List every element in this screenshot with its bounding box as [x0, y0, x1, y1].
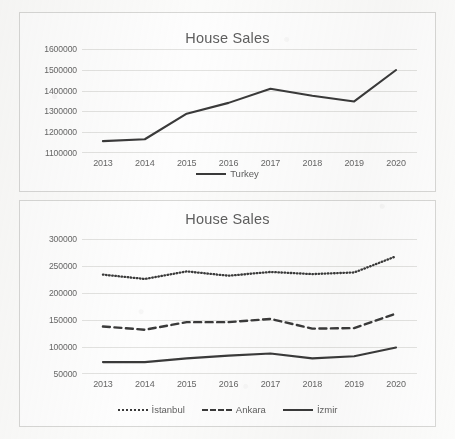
- y-axis-tick-label: 1500000: [44, 65, 77, 75]
- legend-line-swatch-icon: [283, 409, 313, 411]
- y-axis-tick-label: 1400000: [44, 86, 77, 96]
- plot-area: 1100000120000013000001400000150000016000…: [82, 49, 417, 153]
- x-axis-tick-label: 2015: [177, 158, 197, 168]
- chart-title: House Sales: [20, 30, 435, 46]
- y-axis-tick-label: 1200000: [44, 127, 77, 137]
- y-axis-tick-label: 200000: [49, 288, 77, 298]
- series-line-turkey: [103, 70, 396, 141]
- x-axis-tick-label: 2013: [93, 158, 113, 168]
- y-axis-tick-label: 50000: [54, 369, 77, 379]
- y-axis-tick-label: 1100000: [45, 148, 77, 158]
- y-axis-tick-label: 1300000: [44, 106, 77, 116]
- y-axis-tick-label: 1600000: [44, 44, 77, 54]
- series-layer: [82, 49, 417, 153]
- legend-label: Turkey: [230, 168, 259, 179]
- y-axis-tick-label: 300000: [49, 234, 77, 244]
- chart-house-sales-cities: House Sales 5000010000015000020000025000…: [19, 200, 436, 427]
- series-line-i̇zmir: [103, 348, 396, 363]
- plot-area: 50000100000150000200000250000300000 2013…: [82, 239, 417, 374]
- chart-title: House Sales: [20, 211, 435, 227]
- legend-line-swatch-icon: [118, 409, 148, 411]
- x-axis-tick-label: 2020: [386, 379, 406, 389]
- x-axis-tick-label: 2013: [93, 379, 113, 389]
- legend-line-swatch-icon: [202, 409, 232, 411]
- x-axis-tick-label: 2018: [303, 158, 323, 168]
- legend-label: İzmir: [317, 404, 338, 415]
- y-axis-tick-label: 100000: [49, 342, 77, 352]
- x-axis-tick-label: 2014: [135, 379, 155, 389]
- legend-item[interactable]: İzmir: [283, 404, 338, 415]
- series-layer: [82, 239, 417, 374]
- legend-label: Ankara: [236, 404, 266, 415]
- series-line-ankara: [103, 314, 396, 330]
- legend-item[interactable]: Turkey: [196, 168, 259, 179]
- x-axis-tick-label: 2015: [177, 379, 197, 389]
- legend-line-swatch-icon: [196, 173, 226, 175]
- x-axis-tick-label: 2017: [261, 158, 281, 168]
- x-axis-tick-label: 2016: [219, 379, 239, 389]
- x-axis-tick-label: 2014: [135, 158, 155, 168]
- x-axis-tick-label: 2016: [219, 158, 239, 168]
- x-axis-tick-label: 2019: [344, 158, 364, 168]
- chart-legend: Turkey: [20, 168, 435, 179]
- series-line-i̇stanbul: [103, 256, 396, 279]
- legend-label: İstanbul: [152, 404, 185, 415]
- legend-item[interactable]: İstanbul: [118, 404, 185, 415]
- x-axis-tick-label: 2019: [344, 379, 364, 389]
- x-axis-tick-label: 2020: [386, 158, 406, 168]
- legend-item[interactable]: Ankara: [202, 404, 266, 415]
- chart-house-sales-turkey: House Sales 1100000120000013000001400000…: [19, 12, 436, 192]
- y-axis-tick-label: 150000: [49, 315, 77, 325]
- x-axis-tick-label: 2017: [261, 379, 281, 389]
- y-axis-tick-label: 250000: [49, 261, 77, 271]
- chart-legend: İstanbulAnkaraİzmir: [20, 404, 435, 415]
- x-axis-tick-label: 2018: [303, 379, 323, 389]
